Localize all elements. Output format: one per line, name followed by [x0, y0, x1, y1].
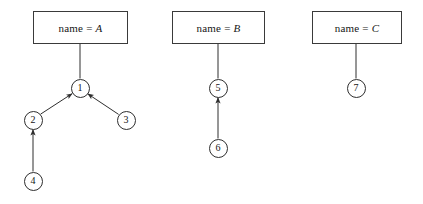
- object-node-label: 2: [31, 115, 36, 125]
- object-node-label: 3: [124, 115, 129, 125]
- diagram-canvas: name = Aname = Bname = C 1234567: [0, 0, 423, 204]
- edges-group: [33, 94, 218, 172]
- group-label-prefix: name =: [197, 22, 231, 34]
- group-box-a: name = A: [33, 11, 128, 44]
- group-label-prefix: name =: [335, 22, 369, 34]
- object-node-7: 7: [347, 79, 366, 98]
- group-label-value: A: [96, 22, 103, 34]
- group-box-label: name = A: [59, 22, 103, 34]
- edge-edge-2-to-1: [41, 94, 73, 115]
- group-label-prefix: name =: [59, 22, 93, 34]
- group-box-label: name = B: [197, 22, 241, 34]
- object-node-4: 4: [24, 172, 43, 191]
- group-box-c: name = C: [312, 11, 402, 44]
- object-node-label: 5: [216, 83, 221, 93]
- object-node-label: 1: [78, 83, 83, 93]
- object-node-label: 4: [31, 176, 36, 186]
- group-label-value: B: [234, 22, 241, 34]
- connectors-group: [80, 44, 356, 79]
- group-box-b: name = B: [172, 11, 265, 44]
- object-node-2: 2: [24, 111, 43, 130]
- object-node-6: 6: [209, 139, 228, 158]
- object-node-3: 3: [117, 111, 136, 130]
- edge-edge-3-to-1: [88, 94, 119, 115]
- group-box-label: name = C: [335, 22, 379, 34]
- object-node-5: 5: [209, 79, 228, 98]
- group-label-value: C: [372, 22, 380, 34]
- object-node-label: 7: [354, 83, 359, 93]
- object-node-1: 1: [71, 79, 90, 98]
- object-node-label: 6: [216, 143, 221, 153]
